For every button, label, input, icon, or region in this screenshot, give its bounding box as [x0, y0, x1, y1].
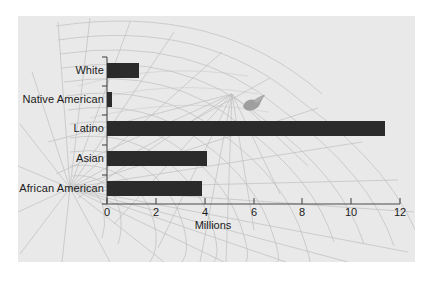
bar-asian — [107, 151, 207, 166]
x-tick-6: 6 — [242, 206, 266, 218]
chart-figure: White Native American Latino Asian Afric… — [0, 0, 426, 282]
x-tick-8: 8 — [290, 206, 314, 218]
bar-latino — [107, 121, 385, 136]
x-tick-0: 0 — [95, 206, 119, 218]
category-label-asian: Asian — [76, 152, 104, 164]
category-label-white: White — [75, 64, 104, 76]
bar-african-american — [107, 181, 202, 196]
x-tick-4: 4 — [193, 206, 217, 218]
bar-native-american — [107, 92, 112, 107]
category-label-african-american: African American — [19, 182, 104, 194]
x-axis-title: Millions — [0, 219, 426, 231]
x-tick-10: 10 — [339, 206, 363, 218]
plot-axes — [0, 0, 426, 282]
category-label-native-american: Native American — [22, 93, 104, 105]
category-label-latino: Latino — [73, 122, 104, 134]
x-tick-12: 12 — [388, 206, 412, 218]
x-tick-2: 2 — [144, 206, 168, 218]
bar-white — [107, 63, 139, 78]
